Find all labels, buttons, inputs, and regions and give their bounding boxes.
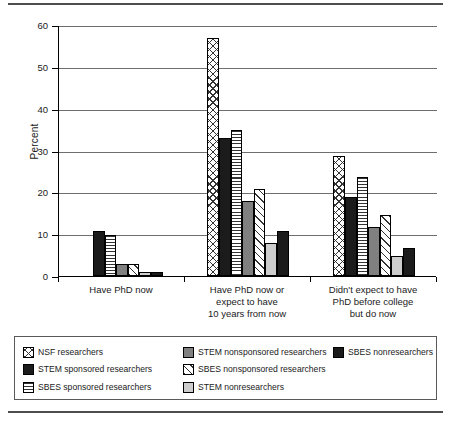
bar — [116, 264, 128, 276]
bar-group — [311, 25, 437, 276]
legend-label: STEM nonsponsored researchers — [198, 348, 327, 357]
x-axis-label-line: expect to have — [184, 296, 310, 308]
bar — [93, 231, 105, 276]
bar — [254, 189, 266, 276]
x-axis-tick-mark — [310, 277, 311, 282]
legend-swatch-icon — [23, 347, 34, 358]
plot-area — [58, 26, 436, 277]
y-axis-tick-label: 50 — [24, 63, 48, 73]
bar — [139, 272, 151, 276]
legend-swatch-icon — [23, 382, 34, 393]
x-axis-category-label: Have PhD now — [58, 284, 184, 296]
legend-item[interactable]: STEM nonresearchers — [183, 379, 327, 396]
legend-swatch-icon — [183, 347, 194, 358]
legend-item[interactable]: NSF researchers — [23, 344, 152, 361]
y-axis-tick-mark — [52, 110, 58, 111]
bar — [219, 138, 231, 276]
x-axis-tick-mark — [184, 277, 185, 282]
bar — [391, 256, 403, 276]
legend-label: SBES nonsponsored researchers — [198, 365, 326, 374]
y-axis-tick-label: 40 — [24, 105, 48, 115]
bar — [403, 248, 415, 276]
bar — [128, 264, 140, 276]
legend-item[interactable]: SBES nonsponsored researchers — [183, 362, 327, 379]
legend-swatch-icon — [333, 347, 344, 358]
y-axis-tick-mark — [52, 235, 58, 236]
legend-item[interactable]: SBES nonresearchers — [333, 344, 433, 361]
bar-group — [185, 25, 311, 276]
bar — [380, 215, 392, 276]
x-axis-category-label: Have PhD now orexpect to have10 years fr… — [184, 284, 310, 319]
y-axis-tick-mark — [52, 193, 58, 194]
y-axis-tick-label: 10 — [24, 230, 48, 240]
bar — [333, 156, 345, 276]
legend-swatch-icon — [183, 364, 194, 375]
x-axis-label-line: PhD before college — [310, 296, 436, 308]
y-axis-tick-mark — [52, 152, 58, 153]
bottom-horizontal-rule — [8, 411, 443, 413]
legend-item[interactable]: SBES sponsored researchers — [23, 379, 152, 396]
y-axis-tick-label: 0 — [24, 272, 48, 282]
legend-label: SBES nonresearchers — [348, 348, 433, 357]
legend-column: SBES nonresearchers — [333, 344, 433, 362]
legend-item[interactable]: STEM nonsponsored researchers — [183, 344, 327, 361]
x-axis-label-line: Have PhD now or — [184, 284, 310, 296]
bar — [368, 227, 380, 276]
legend-column: STEM nonsponsored researchersSBES nonspo… — [183, 344, 327, 397]
legend-label: SBES sponsored researchers — [38, 383, 151, 392]
y-axis-tick-label: 30 — [24, 147, 48, 157]
bar — [357, 177, 369, 276]
bar — [105, 235, 117, 276]
bar — [242, 201, 254, 276]
x-axis-label-line: 10 years from now — [184, 308, 310, 320]
x-axis-label-line: Have PhD now — [58, 284, 184, 296]
legend-label: STEM nonresearchers — [198, 383, 284, 392]
legend-swatch-icon — [183, 382, 194, 393]
legend-item[interactable]: STEM sponsored researchers — [23, 362, 152, 379]
legend-label: STEM sponsored researchers — [38, 365, 152, 374]
y-axis-tick-label: 60 — [24, 21, 48, 31]
bar — [151, 272, 163, 276]
y-axis-tick-mark — [52, 26, 58, 27]
bar — [277, 231, 289, 276]
y-axis-tick-mark — [52, 68, 58, 69]
x-axis-tick-mark — [58, 277, 59, 282]
y-axis-tick-label: 20 — [24, 188, 48, 198]
bar-chart: Percent 0102030405060Have PhD nowHave Ph… — [0, 10, 451, 330]
legend-label: NSF researchers — [38, 348, 103, 357]
bar — [231, 130, 243, 276]
bar-group — [59, 25, 185, 276]
x-axis-label-line: Didn't expect to have — [310, 284, 436, 296]
bar — [265, 243, 277, 276]
top-horizontal-rule — [8, 3, 443, 5]
legend-swatch-icon — [23, 364, 34, 375]
x-axis-tick-mark — [436, 277, 437, 282]
legend-column: NSF researchersSTEM sponsored researcher… — [23, 344, 152, 397]
x-axis-label-line: but do now — [310, 308, 436, 320]
x-axis-category-label: Didn't expect to havePhD before collegeb… — [310, 284, 436, 319]
bar — [345, 197, 357, 276]
chart-legend: NSF researchersSTEM sponsored researcher… — [14, 336, 437, 400]
bar — [207, 38, 219, 276]
